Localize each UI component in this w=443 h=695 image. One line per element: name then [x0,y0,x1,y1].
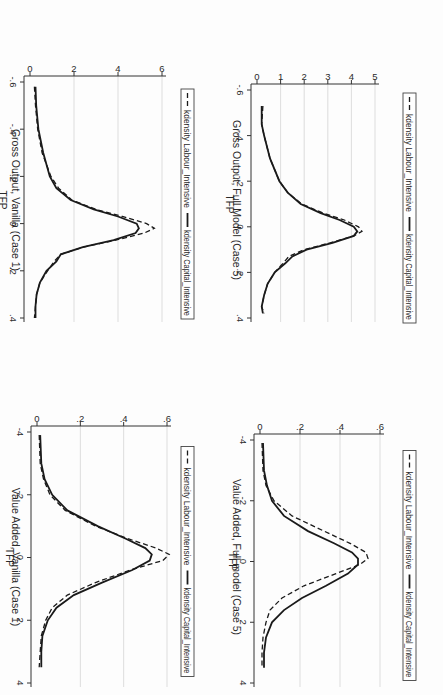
y-tick-label: 0 [34,413,39,424]
y-tick-label: .6 [376,421,384,432]
legend: kdensity Labour_Intensivekdensity Capita… [403,93,416,323]
x-axis-label: TFP [0,191,8,210]
legend-label-labour: kdensity Labour_Intensive [182,110,192,208]
x-tick-label: .2 [8,267,19,275]
y-tick-label: 2 [302,71,307,82]
x-tick-label: 0 [8,221,19,226]
x-tick-label: -2 [238,497,249,505]
panel-gross-output-full-model: Gross Output, Full Model (Case 5)012345-… [224,71,416,323]
x-tick-label: -.2 [235,176,246,187]
legend-label-capital: kdensity Capital_Intensive [404,234,414,320]
y-tick-label: 6 [159,63,164,74]
x-tick-label: -.6 [235,84,246,95]
panel-value-added-full-model: Value Added, Full model (Case 5)0.2.4.6-… [227,421,416,687]
y-tick-label: 4 [115,63,120,74]
series-capital-intensive [40,435,152,667]
x-tick-label: -4 [15,428,26,436]
chart-canvas: Gross Output, Vanilla (Case 1)0246-.6-.4… [0,0,443,695]
x-tick-label: -2 [15,491,26,499]
y-tick-label: 1 [278,71,283,82]
y-tick-label: 3 [325,71,330,82]
x-tick-label: .2 [235,268,246,276]
y-tick-label: .4 [336,421,344,432]
legend-label-labour: kdensity Labour_Intensive [182,468,192,566]
x-tick-label: 2 [238,620,249,625]
rotated-figure: Gross Output, Vanilla (Case 1)0246-.6-.4… [0,63,416,687]
x-tick-label: 0 [235,224,246,229]
x-tick-label: -.4 [8,124,19,135]
x-tick-label: -.4 [235,130,246,141]
y-tick-label: .6 [163,413,171,424]
y-tick-label: 4 [349,71,354,82]
series-capital-intensive [36,87,139,318]
legend-label-capital: kdensity Capital_Intensive [182,588,192,674]
y-tick-label: 0 [27,63,32,74]
legend-label-labour: kdensity Labour_Intensive [404,472,414,570]
y-tick-label: .2 [296,421,304,432]
legend: kdensity Labour_Intensivekdensity Capita… [181,89,194,319]
x-tick-label: 0 [238,559,249,564]
x-tick-label: -.2 [8,171,19,182]
y-tick-label: 5 [372,71,377,82]
x-tick-label: -4 [238,436,249,444]
legend: kdensity Labour_Intensivekdensity Capita… [181,447,194,677]
series-labour-intensive [34,87,154,318]
y-tick-label: 2 [71,63,76,74]
legend-label-capital: kdensity Capital_Intensive [404,592,414,678]
legend-label-capital: kdensity Capital_Intensive [182,230,192,316]
x-axis-label: TFP [227,552,238,571]
y-tick-label: 0 [257,421,262,432]
x-tick-label: .4 [235,314,246,322]
x-tick-label: 0 [15,555,26,560]
x-tick-label: .4 [8,314,19,322]
legend: kdensity Labour_Intensivekdensity Capita… [403,451,416,681]
legend-label-labour: kdensity Labour_Intensive [404,114,414,212]
x-tick-label: -.6 [8,76,19,87]
x-tick-label: 4 [238,680,249,685]
series-capital-intensive [262,106,358,313]
panel-gross-output-vanilla: Gross Output, Vanilla (Case 1)0246-.6-.4… [0,63,194,322]
x-axis-label: TFP [224,195,235,214]
x-axis-label: TFP [4,548,15,567]
series-labour-intensive [262,443,368,668]
chart-title: Gross Output, Vanilla (Case 1) [10,129,22,271]
x-tick-label: 4 [15,680,26,685]
y-tick-label: .4 [120,413,128,424]
series-capital-intensive [263,443,358,668]
y-tick-label: .2 [76,413,84,424]
x-tick-label: 2 [15,618,26,623]
scanned-page: Gross Output, Vanilla (Case 1)0246-.6-.4… [0,0,443,695]
panel-value-added-vanilla: Value Added, Vanilla (Case 1)0.2.4.6-4-2… [4,413,194,687]
y-tick-label: 0 [254,71,259,82]
